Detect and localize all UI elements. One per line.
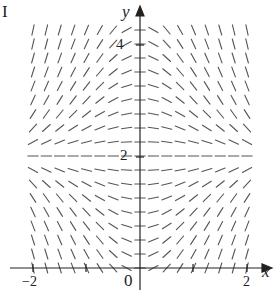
slope-segment: [95, 169, 105, 171]
slope-segment: [97, 250, 103, 258]
slope-segment: [202, 140, 212, 143]
slope-segment: [177, 250, 183, 258]
slope-segment: [189, 182, 198, 187]
slope-segment: [218, 81, 223, 90]
slope-segment: [203, 125, 212, 131]
slope-segment: [32, 39, 34, 49]
slope-segment: [31, 221, 35, 231]
slope-segment: [108, 183, 118, 186]
slope-segment: [219, 39, 222, 49]
slope-segment: [162, 223, 171, 229]
slope-segment: [218, 67, 222, 77]
slope-segment: [244, 110, 250, 119]
slope-segment: [28, 168, 37, 173]
slope-segment: [204, 222, 209, 231]
slope-segment: [71, 67, 76, 76]
slope-segment: [148, 183, 158, 184]
slope-segment: [218, 235, 222, 245]
slope-segment: [83, 222, 89, 230]
x-axis-label: x: [262, 262, 270, 282]
slope-segment: [148, 127, 158, 128]
slope-segment: [96, 82, 103, 89]
slope-segment: [97, 236, 104, 244]
slope-segment: [122, 252, 131, 256]
slope-segment: [231, 110, 237, 118]
panel-label: I: [2, 2, 8, 22]
slope-segment: [109, 237, 117, 243]
slope-segment: [219, 249, 223, 259]
slope-segment: [149, 27, 158, 32]
slope-segment: [69, 194, 76, 201]
slope-segment: [97, 26, 102, 35]
slope-segment: [58, 25, 61, 35]
slope-segment: [83, 208, 90, 216]
slope-segment: [190, 208, 197, 216]
y-axis-arrow-icon: [136, 6, 144, 16]
slope-segment: [71, 39, 75, 49]
slope-segment: [56, 125, 64, 131]
slope-segment: [204, 208, 210, 216]
slope-segment: [121, 170, 131, 171]
slope-segment: [149, 42, 158, 47]
slope-segment: [56, 110, 63, 118]
slope-segment: [163, 55, 171, 62]
slope-segment: [32, 25, 34, 35]
slope-segment: [162, 196, 172, 200]
slope-segment: [163, 40, 170, 48]
slope-segment: [202, 168, 212, 171]
slope-segment: [232, 235, 236, 245]
slope-segment: [216, 181, 224, 187]
slope-segment: [122, 238, 132, 242]
slope-segment: [242, 140, 251, 145]
slope-segment: [176, 209, 184, 215]
slope-segment: [232, 39, 235, 49]
slope-segment: [58, 39, 61, 49]
slope-segment: [95, 182, 105, 186]
slope-segment: [163, 251, 171, 258]
slope-segment: [246, 249, 249, 259]
slope-segment: [122, 99, 132, 102]
slope-segment: [191, 39, 195, 48]
slope-segment: [189, 126, 198, 131]
slope-segment: [218, 208, 224, 217]
slope-segment: [148, 113, 158, 115]
slope-segment: [96, 209, 104, 215]
slope-segment: [57, 221, 62, 230]
slope-segment: [29, 180, 36, 188]
slope-segment: [58, 235, 62, 245]
slope-segment: [217, 194, 224, 202]
slope-segment: [58, 53, 62, 63]
slope-segment: [97, 54, 103, 62]
slope-segment: [45, 67, 49, 77]
slope-segment: [190, 82, 196, 90]
slope-segment: [149, 70, 159, 74]
slope-segment: [176, 82, 183, 89]
slope-segment: [205, 39, 209, 49]
slope-segment: [57, 96, 63, 105]
slope-segment: [148, 197, 158, 199]
slope-segment: [58, 67, 62, 77]
slope-segment: [84, 53, 89, 62]
slope-segment: [175, 141, 185, 143]
slope-segment: [108, 141, 118, 142]
slope-segment: [108, 112, 118, 116]
slope-segment: [96, 97, 104, 103]
slope-segment: [31, 67, 34, 77]
slope-segment: [109, 223, 118, 229]
slope-segment: [205, 249, 209, 259]
slope-segment: [108, 127, 118, 130]
slope-segment: [176, 97, 184, 103]
slope-segment: [43, 194, 49, 202]
slope-segment: [148, 170, 158, 171]
slope-segment: [245, 221, 249, 231]
slope-segment: [189, 141, 199, 144]
slope-segment: [31, 235, 34, 245]
slope-segment: [245, 207, 249, 216]
slope-segment: [109, 251, 117, 258]
slope-segment: [245, 235, 248, 245]
slope-segment: [83, 82, 89, 90]
slope-segment: [68, 140, 78, 143]
slope-segment: [57, 208, 63, 217]
slope-segment: [95, 111, 104, 116]
slope-segment: [203, 194, 210, 201]
